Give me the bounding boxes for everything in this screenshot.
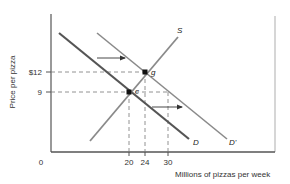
x-tick-label-24: 24: [141, 158, 150, 167]
y-tick-label-9: 9: [38, 88, 43, 97]
y-axis-title: Price per pizza: [8, 55, 17, 108]
x-tick-label-30: 30: [164, 158, 173, 167]
point-c-marker: [127, 90, 132, 95]
y-tick-label-12: $12: [29, 68, 43, 77]
demand-curve-d: [59, 33, 189, 139]
demand-curve-d-prime: [97, 33, 227, 139]
point-g-label: g: [151, 68, 156, 77]
supply-demand-chart: c g S D D' $12 9 0 20 24 30 Millions of …: [0, 0, 290, 184]
curve-s-label: S: [177, 26, 183, 35]
curve-d-prime-label: D': [229, 138, 237, 147]
curve-d-label: D: [193, 138, 199, 147]
origin-label: 0: [39, 158, 44, 167]
dashed-guides: [51, 72, 168, 152]
x-tick-label-20: 20: [125, 158, 134, 167]
point-c-label: c: [135, 87, 139, 96]
x-axis-title: Millions of pizzas per week: [175, 170, 271, 179]
point-g-marker: [143, 70, 148, 75]
